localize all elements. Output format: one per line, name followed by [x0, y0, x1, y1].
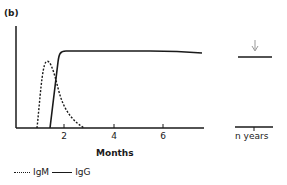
x-axis-label: Months [96, 148, 134, 158]
igm-legend-swatch [14, 172, 30, 173]
x-tick-label-2: 2 [54, 131, 74, 141]
igg-legend-swatch [52, 172, 72, 173]
x-tick-label-6: 6 [153, 131, 173, 141]
igm-legend-label: IgM [33, 167, 49, 177]
igm-curve [37, 61, 84, 128]
igg-curve [50, 51, 202, 128]
antibody-response-chart [0, 0, 287, 185]
x-tick-label-4: 4 [104, 131, 124, 141]
legend: IgM IgG [14, 167, 90, 177]
n-years-label: n years [235, 131, 268, 141]
igg-legend-label: IgG [75, 167, 90, 177]
